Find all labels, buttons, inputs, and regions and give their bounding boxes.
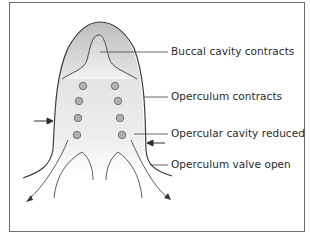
label-opercular-cavity-reduced: Opercular cavity reduced	[171, 127, 305, 139]
arrow-left-icon	[147, 140, 153, 146]
gill-dot	[75, 97, 82, 104]
label-buccal-cavity: Buccal cavity contracts	[171, 45, 294, 57]
gill-dot	[114, 97, 121, 104]
gill-dot	[116, 114, 123, 121]
label-operculum-contracts: Operculum contracts	[171, 90, 282, 102]
gill-dot	[73, 131, 80, 138]
arrow-right-icon	[47, 118, 53, 124]
gill-dot	[111, 82, 118, 89]
flow-arrowheads	[26, 193, 171, 202]
gill-ventilation-diagram	[0, 0, 310, 244]
label-operculum-valve-open: Operculum valve open	[171, 158, 291, 170]
arrow-out-right-icon	[164, 193, 171, 200]
gill-dot	[79, 82, 86, 89]
gill-dot	[74, 114, 81, 121]
gill-dot	[118, 131, 125, 138]
